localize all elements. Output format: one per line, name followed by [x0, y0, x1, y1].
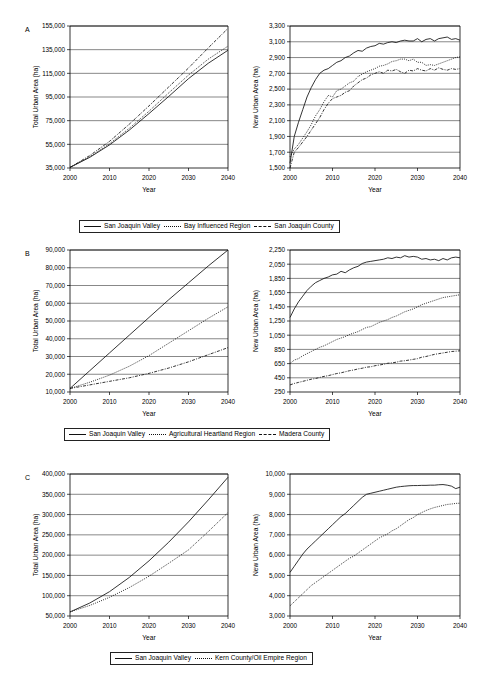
x-axis-title: Year — [142, 634, 156, 641]
legend-item-a-0: San Joaquin Valley — [84, 223, 160, 230]
series-line-2 — [290, 68, 460, 168]
ytick-label: 2,300 — [269, 101, 285, 108]
xtick-label: 2030 — [410, 622, 425, 629]
y-axis-title: New Urban Area (ha) — [252, 514, 260, 576]
ytick-label: 300,000 — [42, 511, 66, 518]
ytick-label: 4,000 — [269, 592, 285, 599]
ytick-label: 1,250 — [269, 317, 285, 324]
chart-c-left: 50,000100,000150,000200,000250,000300,00… — [22, 466, 238, 652]
legend-label: Agricultural Heartland Region — [169, 431, 255, 438]
ytick-label: 50,000 — [45, 612, 65, 619]
xtick-label: 2000 — [283, 398, 298, 405]
legend-swatch-solid-icon — [69, 432, 86, 437]
ytick-label: 60,000 — [45, 300, 65, 307]
xtick-label: 2030 — [181, 622, 196, 629]
y-axis-title: New Urban Area (ha) — [252, 66, 260, 128]
xtick-label: 2030 — [410, 174, 425, 181]
chart-svg: 35,00055,00075,00095,000115,000135,00015… — [22, 18, 238, 204]
series-line-1 — [70, 513, 228, 612]
ytick-label: 1,500 — [269, 164, 285, 171]
legend-label: Madera County — [279, 431, 324, 438]
x-axis-title: Year — [142, 186, 156, 193]
panel-b: B 10,00020,00030,00040,00050,00060,00070… — [0, 238, 481, 464]
legend-label: San Joaquin Valley — [104, 223, 160, 230]
xtick-label: 2000 — [63, 622, 78, 629]
xtick-label: 2030 — [181, 174, 196, 181]
xtick-label: 2000 — [63, 398, 78, 405]
series-line-2 — [290, 351, 460, 385]
ytick-label: 2,500 — [269, 85, 285, 92]
series-line-0 — [290, 485, 460, 573]
series-line-2 — [70, 348, 228, 389]
ytick-label: 40,000 — [45, 335, 65, 342]
y-axis-title: Total Urban Area (ha) — [32, 290, 40, 353]
x-axis-title: Year — [368, 410, 382, 417]
x-axis-title: Year — [368, 186, 382, 193]
ytick-label: 350,000 — [42, 491, 66, 498]
series-line-1 — [290, 57, 460, 157]
chart-c-right: 3,0004,0005,0006,0007,0008,0009,00010,00… — [244, 466, 470, 652]
xtick-label: 2020 — [142, 622, 157, 629]
series-line-0 — [70, 477, 228, 612]
ytick-label: 1,050 — [269, 332, 285, 339]
legend-swatch-dotted-icon — [164, 224, 181, 229]
ytick-label: 2,250 — [269, 246, 285, 253]
ytick-label: 55,000 — [45, 141, 65, 148]
legend-item-c-0: San Joaquin Valley — [115, 655, 191, 662]
legend-item-b-2: Madera County — [259, 431, 324, 438]
ytick-label: 3,100 — [269, 38, 285, 45]
ytick-label: 250,000 — [42, 531, 66, 538]
ytick-label: 35,000 — [45, 164, 65, 171]
ytick-label: 250 — [274, 388, 285, 395]
ytick-label: 850 — [274, 346, 285, 353]
ytick-label: 10,000 — [265, 470, 285, 477]
legend-item-b-1: Agricultural Heartland Region — [149, 431, 255, 438]
legend-swatch-dotted-icon — [149, 432, 166, 437]
legend-item-a-2: San Joaquin County — [254, 223, 333, 230]
y-axis-title: New Urban Area (ha) — [252, 290, 260, 352]
series-line-1 — [290, 503, 460, 606]
xtick-label: 2000 — [283, 174, 298, 181]
xtick-label: 2010 — [102, 398, 117, 405]
ytick-label: 6,000 — [269, 551, 285, 558]
series-line-0 — [70, 50, 228, 167]
xtick-label: 2010 — [325, 174, 340, 181]
chart-svg: 1,5001,7001,9002,1002,3002,5002,7002,900… — [244, 18, 470, 204]
ytick-label: 200,000 — [42, 551, 66, 558]
ytick-label: 50,000 — [45, 317, 65, 324]
y-axis-title: Total Urban Area (ha) — [32, 514, 40, 577]
xtick-label: 2030 — [181, 398, 196, 405]
chart-a-left: 35,00055,00075,00095,000115,000135,00015… — [22, 18, 238, 204]
chart-svg: 10,00020,00030,00040,00050,00060,00070,0… — [22, 242, 238, 428]
ytick-label: 1,700 — [269, 149, 285, 156]
legend-panel-c: San Joaquin ValleyKern County/Oil Empire… — [110, 652, 313, 665]
ytick-label: 650 — [274, 360, 285, 367]
ytick-label: 75,000 — [45, 117, 65, 124]
ytick-label: 450 — [274, 374, 285, 381]
series-line-1 — [290, 295, 460, 364]
ytick-label: 5,000 — [269, 572, 285, 579]
ytick-label: 90,000 — [45, 246, 65, 253]
xtick-label: 2020 — [368, 174, 383, 181]
ytick-label: 8,000 — [269, 511, 285, 518]
xtick-label: 2000 — [283, 622, 298, 629]
legend-swatch-dashdot-icon — [259, 432, 276, 437]
legend-swatch-dashdot-icon — [254, 224, 271, 229]
figure-container: A 35,00055,00075,00095,000115,000135,000… — [0, 0, 481, 689]
xtick-label: 2020 — [368, 622, 383, 629]
ytick-label: 1,650 — [269, 289, 285, 296]
ytick-label: 70,000 — [45, 282, 65, 289]
series-line-0 — [290, 256, 460, 318]
series-line-2 — [70, 28, 228, 167]
ytick-label: 150,000 — [42, 572, 66, 579]
ytick-label: 95,000 — [45, 93, 65, 100]
series-line-0 — [290, 37, 460, 163]
x-axis-title: Year — [368, 634, 382, 641]
ytick-label: 30,000 — [45, 353, 65, 360]
series-line-1 — [70, 307, 228, 389]
xtick-label: 2030 — [410, 398, 425, 405]
ytick-label: 115,000 — [42, 70, 65, 77]
xtick-label: 2010 — [325, 622, 340, 629]
xtick-label: 2040 — [221, 622, 236, 629]
ytick-label: 10,000 — [45, 388, 65, 395]
